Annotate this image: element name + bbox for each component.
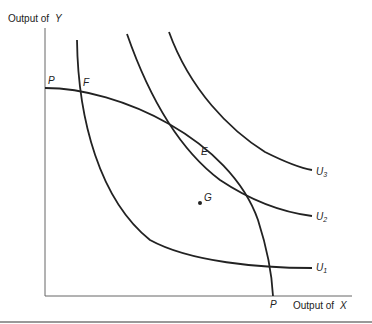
- label-u1: U1: [316, 262, 327, 274]
- label-e: E: [201, 146, 208, 157]
- ppf-indifference-diagram: Output of Y Output of X P F E G P U3 U2 …: [0, 0, 372, 324]
- label-g: G: [204, 192, 212, 203]
- indifference-curve-u1: [77, 40, 312, 268]
- point-g-dot: [198, 201, 202, 205]
- y-axis-label: Output of Y: [8, 13, 63, 24]
- indifference-curve-u3: [169, 32, 312, 170]
- label-p-bottom: P: [270, 299, 277, 310]
- indifference-curve-u2: [127, 34, 312, 216]
- x-axis-label: Output of X: [293, 300, 347, 311]
- label-u2: U2: [316, 211, 327, 223]
- label-u3: U3: [316, 166, 327, 178]
- label-p-top: P: [48, 75, 55, 86]
- label-f: F: [83, 77, 90, 88]
